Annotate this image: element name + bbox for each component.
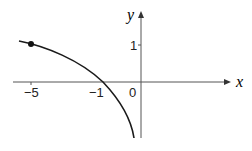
y-tick-label-1: 1 xyxy=(130,38,137,53)
origin-label: 0 xyxy=(129,85,136,100)
x-tick-label-neg5: −5 xyxy=(24,85,39,100)
x-axis-label: x xyxy=(235,73,243,90)
y-axis-arrow-icon xyxy=(138,11,144,18)
x-tick-label-neg1: −1 xyxy=(89,85,104,100)
start-point-marker xyxy=(28,41,34,47)
x-axis-arrow-icon xyxy=(224,79,231,85)
function-graph: x y −5 −1 0 1 xyxy=(0,0,252,151)
y-axis-label: y xyxy=(125,6,135,24)
